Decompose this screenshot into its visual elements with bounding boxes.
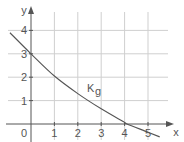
y-tick-label: 2 [21, 71, 27, 83]
x-tick-label: 5 [145, 127, 151, 139]
x-tick-label: 3 [98, 127, 104, 139]
curve-label-subscript: g [95, 85, 101, 97]
x-axis-label: x [173, 126, 179, 138]
x-tick-label: 0 [21, 127, 27, 139]
y-axis-arrow-icon [28, 6, 34, 14]
axis-labels: 0123451234xyKg [21, 4, 179, 139]
y-tick-label: 1 [21, 95, 27, 107]
y-axis-label: y [21, 4, 27, 16]
function-graph: 0123451234xyKg [0, 0, 184, 142]
x-tick-label: 2 [75, 127, 81, 139]
curve-kg [10, 33, 160, 137]
grid [8, 12, 168, 140]
x-tick-label: 4 [122, 127, 128, 139]
axes [6, 6, 174, 142]
y-tick-label: 4 [21, 24, 27, 36]
curve-path [10, 33, 160, 137]
x-tick-label: 1 [51, 127, 57, 139]
curve-label: K [87, 82, 95, 94]
y-tick-label: 3 [21, 48, 27, 60]
